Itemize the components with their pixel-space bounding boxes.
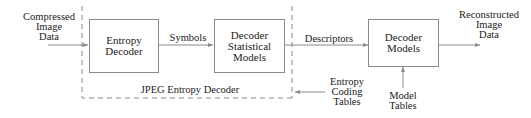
input-entropy-coding-tables: Entropy Coding Tables [320,77,374,107]
decoder-statistical-models-box: Decoder Statistical Models [214,19,285,73]
decoder-statistical-models-label: Decoder Statistical Models [228,30,271,63]
entropy-decoder-box: Entropy Decoder [89,19,159,73]
entropy-decoder-label: Entropy Decoder [105,35,142,57]
region-label-jpeg-entropy-decoder: JPEG Entropy Decoder [120,85,260,95]
input-compressed-image-data: Compressed Image Data [14,12,84,42]
output-reconstructed-image-data: Reconstructed Image Data [448,10,530,40]
decoder-models-label: Decoder Models [385,32,422,54]
edge-symbols: Symbols [162,33,214,43]
edge-descriptors: Descriptors [296,34,362,44]
decoder-models-box: Decoder Models [368,19,439,67]
input-model-tables: Model Tables [378,91,428,111]
